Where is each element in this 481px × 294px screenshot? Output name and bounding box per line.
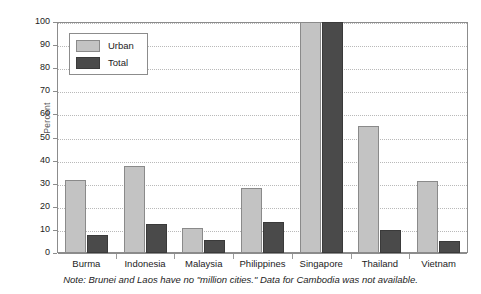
y-tick-label-80: 80 — [14, 63, 50, 72]
bar-singapore-urban — [300, 22, 321, 253]
bar-chart-figure: Percent 1009080706050403020100 BurmaIndo… — [0, 0, 481, 294]
bar-burma-urban — [65, 180, 86, 253]
chart-footnote: Note: Brunei and Laos have no "million c… — [0, 274, 481, 285]
gridline-0 — [58, 253, 467, 254]
bar-thailand-urban — [358, 126, 379, 253]
y-tick-label-90: 90 — [14, 40, 50, 49]
bar-group — [351, 22, 410, 253]
x-axis-label-vietnam: Vietnam — [394, 258, 481, 269]
legend-label-total: Total — [108, 57, 128, 68]
y-tick-label-0: 0 — [14, 248, 50, 257]
category-separator — [292, 254, 293, 259]
y-tick-label-70: 70 — [14, 86, 50, 95]
bar-vietnam-total — [439, 241, 460, 253]
legend: Urban Total — [69, 33, 148, 75]
y-tick-label-30: 30 — [14, 179, 50, 188]
bar-philippines-total — [263, 222, 284, 253]
bar-group — [409, 22, 468, 253]
legend-label-urban: Urban — [108, 40, 134, 51]
bar-indonesia-urban — [124, 166, 145, 253]
category-separator — [233, 254, 234, 259]
bar-vietnam-urban — [417, 181, 438, 253]
y-tick-label-50: 50 — [14, 133, 50, 142]
bar-malaysia-urban — [182, 228, 203, 253]
category-separator — [116, 254, 117, 259]
bar-philippines-urban — [241, 188, 262, 253]
category-separator — [409, 254, 410, 259]
bar-malaysia-total — [204, 240, 225, 253]
y-tick-label-40: 40 — [14, 156, 50, 165]
bar-group — [174, 22, 233, 253]
bar-singapore-total — [322, 22, 343, 253]
category-separator — [351, 254, 352, 259]
y-tick-label-20: 20 — [14, 202, 50, 211]
bar-indonesia-total — [146, 224, 167, 253]
bar-group — [233, 22, 292, 253]
bar-group — [292, 22, 351, 253]
bar-burma-total — [87, 235, 108, 253]
legend-swatch-urban — [76, 40, 100, 52]
category-separator — [174, 254, 175, 259]
y-tick-label-10: 10 — [14, 225, 50, 234]
bar-thailand-total — [380, 230, 401, 253]
y-tick-label-60: 60 — [14, 109, 50, 118]
y-tick-mark-0 — [53, 253, 57, 254]
y-tick-label-100: 100 — [14, 17, 50, 26]
legend-swatch-total — [76, 57, 100, 69]
